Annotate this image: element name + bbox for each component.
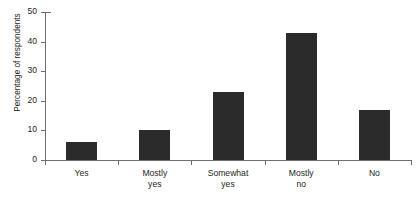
y-tick-40: 40	[41, 42, 45, 43]
x-tick-5	[411, 160, 412, 165]
bar-mostly-yes[interactable]	[139, 130, 170, 160]
y-tick-label-20: 20	[27, 95, 37, 105]
x-label-line: Mostly	[264, 168, 338, 179]
x-label-no: No	[337, 168, 411, 179]
x-label-line: Yes	[45, 168, 119, 179]
bar-no[interactable]	[359, 110, 390, 160]
x-label-line: Somewhat	[191, 168, 265, 179]
bar-mostly-no[interactable]	[286, 33, 317, 160]
x-tick-4	[338, 160, 339, 165]
x-label-mostly-no: Mostlyno	[264, 168, 338, 190]
x-label-line: yes	[191, 179, 265, 190]
y-tick-label-0: 0	[32, 154, 37, 164]
x-tick-2	[191, 160, 192, 165]
x-label-somewhat-yes: Somewhatyes	[191, 168, 265, 190]
y-tick-20: 20	[41, 101, 45, 102]
bar-yes[interactable]	[66, 142, 97, 160]
x-tick-3	[265, 160, 266, 165]
plot-area: 01020304050	[45, 12, 411, 160]
y-tick-50: 50	[41, 12, 45, 13]
x-axis-line	[45, 160, 411, 161]
bar-somewhat-yes[interactable]	[213, 92, 244, 160]
x-label-mostly-yes: Mostlyyes	[118, 168, 192, 190]
x-tick-1	[118, 160, 119, 165]
y-tick-30: 30	[41, 71, 45, 72]
y-tick-label-30: 30	[27, 65, 37, 75]
x-label-line: no	[264, 179, 338, 190]
x-label-yes: Yes	[45, 168, 119, 179]
y-tick-label-10: 10	[27, 124, 37, 134]
x-label-line: Mostly	[118, 168, 192, 179]
y-tick-10: 10	[41, 130, 45, 131]
y-axis-title: Percentage of respondents	[13, 0, 22, 138]
y-axis-cap	[45, 12, 51, 13]
x-label-line: yes	[118, 179, 192, 190]
x-tick-0	[45, 160, 46, 165]
y-axis-line	[45, 12, 46, 160]
y-tick-label-50: 50	[27, 6, 37, 16]
y-tick-label-40: 40	[27, 36, 37, 46]
x-label-line: No	[337, 168, 411, 179]
